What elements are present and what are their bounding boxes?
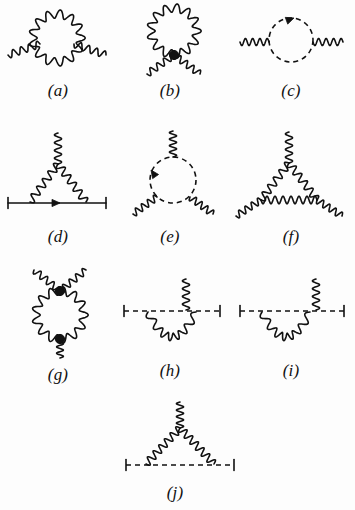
wavy-line — [287, 163, 319, 200]
diagram-j — [126, 402, 234, 471]
diagram-f — [236, 132, 343, 218]
diagram-label-i: (i) — [236, 362, 346, 379]
feynman-diagram-sheet: (a)(b)(c)(d)(e)(f)(g)(h)(i)(j) — [0, 0, 355, 510]
diagram-label-d: (d) — [8, 228, 108, 245]
wavy-line — [146, 427, 180, 466]
diagram-label-h: (h) — [120, 362, 220, 379]
wavy-line — [74, 43, 106, 57]
diagram-label-c: (c) — [236, 82, 346, 99]
wavy-loop — [30, 10, 86, 66]
diagram-label-b: (b) — [120, 82, 220, 99]
direction-arrow-icon — [151, 170, 159, 179]
wavy-arc-line — [260, 312, 310, 341]
wavy-line — [240, 38, 269, 45]
diagram-label-f: (f) — [236, 228, 346, 245]
dashed-loop — [269, 18, 313, 62]
diagram-h — [124, 279, 220, 341]
wavy-line — [316, 200, 342, 216]
diagram-i — [240, 279, 344, 341]
wavy-line — [30, 163, 58, 202]
wavy-line — [182, 279, 189, 310]
diagram-canvas — [0, 0, 355, 510]
diagram-d — [8, 133, 106, 209]
wavy-line — [189, 197, 214, 214]
wavy-line — [56, 164, 88, 202]
wavy-line — [261, 196, 317, 203]
diagram-c — [240, 17, 343, 62]
vertex-dot — [55, 286, 64, 295]
wavy-line — [133, 195, 157, 216]
diagram-label-a: (a) — [8, 82, 108, 99]
wavy-line — [236, 198, 261, 218]
wavy-arc-line — [146, 312, 196, 341]
wavy-line — [312, 279, 319, 310]
wavy-line — [169, 131, 176, 157]
diagram-e — [133, 131, 214, 216]
wavy-loop — [148, 4, 202, 58]
wavy-line — [54, 133, 61, 164]
direction-arrow-icon — [285, 17, 294, 24]
diagram-label-e: (e) — [120, 228, 220, 245]
direction-arrow-icon — [52, 199, 60, 206]
diagram-a — [8, 10, 106, 66]
diagram-label-g: (g) — [8, 366, 108, 383]
wavy-line — [285, 132, 292, 163]
wavy-line — [176, 402, 183, 428]
wavy-line — [179, 428, 216, 464]
diagram-b — [147, 4, 201, 76]
wavy-line — [313, 38, 343, 45]
diagram-label-j: (j) — [120, 484, 230, 501]
diagram-g — [33, 269, 89, 358]
wavy-line — [261, 162, 289, 200]
vertex-dot — [169, 50, 178, 59]
vertex-dot — [55, 334, 64, 343]
